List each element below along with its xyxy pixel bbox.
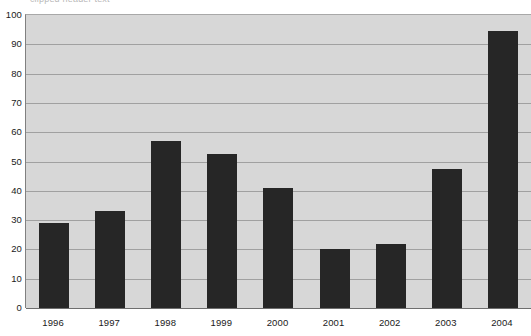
x-tick-label-1996: 1996	[42, 317, 64, 328]
bar-slot	[82, 15, 138, 308]
x-tick-label-2002: 2002	[379, 317, 401, 328]
bar-slot	[250, 15, 306, 308]
y-axis: 0102030405060708090100	[0, 0, 25, 336]
y-tick-label-50: 50	[11, 155, 22, 166]
bar-slot	[363, 15, 419, 308]
bar-2003[interactable]	[432, 169, 462, 308]
bars-layer	[26, 15, 531, 308]
plot-area	[25, 14, 531, 308]
bar-slot	[419, 15, 475, 308]
y-tick-label-0: 0	[17, 302, 22, 313]
y-tick-label-40: 40	[11, 184, 22, 195]
y-tick-label-60: 60	[11, 126, 22, 137]
bar-1999[interactable]	[207, 154, 237, 308]
bar-slot	[307, 15, 363, 308]
x-tick-label-2004: 2004	[491, 317, 513, 328]
bar-1996[interactable]	[39, 223, 69, 308]
x-tick-label-1997: 1997	[98, 317, 120, 328]
y-tick-label-20: 20	[11, 243, 22, 254]
x-tick-label-2000: 2000	[267, 317, 289, 328]
y-tick-label-100: 100	[6, 9, 22, 20]
x-tick-label-1998: 1998	[154, 317, 176, 328]
x-tick-label-1999: 1999	[211, 317, 233, 328]
y-tick-label-90: 90	[11, 38, 22, 49]
clipped-header-strip: — clipped header text —	[0, 0, 531, 7]
bar-2000[interactable]	[263, 188, 293, 308]
y-tick-label-30: 30	[11, 214, 22, 225]
bar-slot	[194, 15, 250, 308]
x-tick-label-2001: 2001	[323, 317, 345, 328]
clipped-header-text: — clipped header text —	[18, 0, 122, 4]
y-tick-label-70: 70	[11, 96, 22, 107]
bar-1998[interactable]	[151, 141, 181, 308]
bar-2001[interactable]	[320, 249, 350, 308]
bar-slot	[26, 15, 82, 308]
bar-1997[interactable]	[95, 211, 125, 308]
bar-slot	[475, 15, 531, 308]
bar-2004[interactable]	[488, 31, 518, 308]
bar-2002[interactable]	[376, 244, 406, 308]
bar-chart-figure: — clipped header text — 0102030405060708…	[0, 0, 531, 336]
x-tick-label-2003: 2003	[435, 317, 457, 328]
y-tick-label-10: 10	[11, 272, 22, 283]
x-axis: 199619971998199920002001200220032004	[25, 308, 531, 336]
y-tick-label-80: 80	[11, 67, 22, 78]
bar-slot	[138, 15, 194, 308]
